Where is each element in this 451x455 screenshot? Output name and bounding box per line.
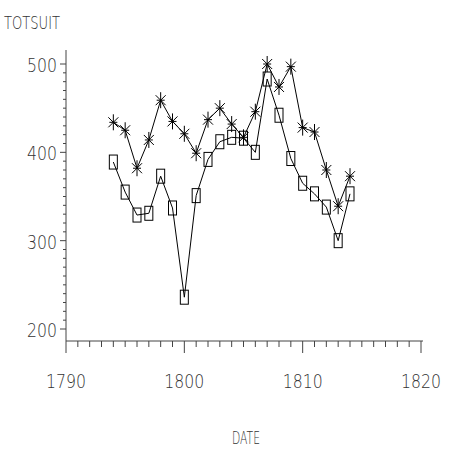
star-marker [262, 56, 272, 72]
star-marker [132, 160, 142, 176]
series-box [109, 72, 354, 304]
series-box-line [113, 79, 350, 297]
axes: 2003004005001790180018101820 [27, 50, 441, 392]
y-tick-label: 300 [27, 231, 57, 253]
star-marker [144, 132, 154, 148]
x-tick-label: 1810 [283, 370, 323, 392]
y-tick-label: 500 [27, 54, 57, 76]
star-marker [298, 120, 308, 136]
star-marker [215, 100, 225, 116]
y-axis-title: TOTSUIT [4, 13, 60, 33]
star-marker [227, 116, 237, 132]
star-marker [120, 122, 130, 138]
star-marker [345, 168, 355, 184]
star-marker [321, 162, 331, 178]
x-tick-label: 1820 [401, 370, 441, 392]
x-tick-label: 1790 [46, 370, 86, 392]
y-tick-label: 200 [27, 319, 57, 341]
star-marker [203, 112, 213, 128]
star-marker [310, 124, 320, 140]
star-marker [108, 114, 118, 130]
x-axis-title: DATE [232, 428, 260, 448]
line-chart: TOTSUIT DATE 200300400500179018001810182… [0, 0, 451, 455]
y-tick-label: 400 [27, 142, 57, 164]
series-layer [108, 56, 355, 304]
star-marker [333, 198, 343, 214]
x-tick-label: 1800 [164, 370, 204, 392]
star-marker [250, 104, 260, 120]
